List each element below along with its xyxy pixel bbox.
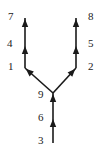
node-label-7: 7: [8, 10, 14, 22]
arrowhead-icon: [22, 46, 28, 54]
node-label-1: 1: [8, 60, 14, 72]
arrowhead-icon: [22, 19, 28, 27]
arrowhead-icon: [73, 19, 79, 27]
node-label-6: 6: [38, 111, 44, 123]
node-label-4: 4: [7, 37, 13, 49]
node-label-5: 5: [88, 37, 94, 49]
node-label-2: 2: [88, 60, 94, 72]
edges-group: [22, 18, 79, 143]
arrowhead-icon: [50, 94, 56, 102]
node-label-9: 9: [38, 88, 44, 100]
arrowhead-icon: [73, 46, 79, 54]
tree-diagram: 369124578: [0, 0, 102, 148]
node-label-8: 8: [88, 10, 94, 22]
node-label-3: 3: [38, 134, 44, 146]
arrowhead-icon: [50, 119, 56, 127]
